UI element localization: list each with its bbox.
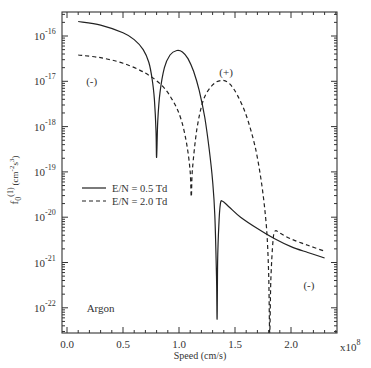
y-tick-label: 10-18 bbox=[34, 118, 56, 133]
x-multiplier-base: x10 bbox=[340, 341, 357, 353]
y-title-sup: (1) bbox=[6, 187, 15, 197]
plot-frame bbox=[62, 12, 337, 333]
x-axis-multiplier: x108 bbox=[340, 338, 361, 353]
annotation-label: Argon bbox=[87, 302, 115, 314]
annotation-label: (-) bbox=[303, 279, 314, 292]
x-tick-label: 0.0 bbox=[60, 338, 74, 350]
x-axis-ticks: 0.00.51.01.52.0 bbox=[60, 12, 336, 350]
x-multiplier-exp: 8 bbox=[357, 338, 361, 347]
y-title-sub: 0 bbox=[14, 197, 23, 201]
series-line-solid bbox=[78, 22, 324, 320]
annotation-label: (+) bbox=[219, 66, 233, 79]
legend: E/N = 0.5 TdE/N = 2.0 Td bbox=[82, 183, 168, 207]
y-tick-label: 10-16 bbox=[34, 27, 56, 42]
y-title-units: (cm bbox=[10, 171, 20, 185]
y-tick-label: 10-20 bbox=[34, 208, 56, 223]
x-tick-label: 1.5 bbox=[228, 338, 242, 350]
plot-border bbox=[62, 12, 337, 333]
legend-label: E/N = 2.0 Td bbox=[112, 196, 168, 207]
chart: 0.00.51.01.52.0 10-1610-1710-1810-1910-2… bbox=[0, 0, 371, 368]
annotation-label: (-) bbox=[86, 75, 97, 88]
legend-label: E/N = 0.5 Td bbox=[112, 183, 168, 194]
series-layer bbox=[78, 22, 324, 333]
y-title-units-close: ) bbox=[10, 156, 20, 159]
y-tick-label: 10-17 bbox=[34, 72, 56, 87]
y-axis-ticks: 10-1610-1710-1810-1910-2010-2110-22 bbox=[34, 14, 337, 331]
y-axis-title: f0(1)(cm-2s3) bbox=[6, 156, 23, 205]
y-tick-label: 10-21 bbox=[34, 254, 56, 269]
x-tick-label: 2.0 bbox=[284, 338, 298, 350]
y-tick-label: 10-22 bbox=[34, 299, 56, 314]
x-tick-label: 0.5 bbox=[116, 338, 130, 350]
x-tick-label: 1.0 bbox=[172, 338, 186, 350]
x-axis-title: Speed (cm/s) bbox=[174, 350, 227, 362]
y-tick-label: 10-19 bbox=[34, 163, 56, 178]
